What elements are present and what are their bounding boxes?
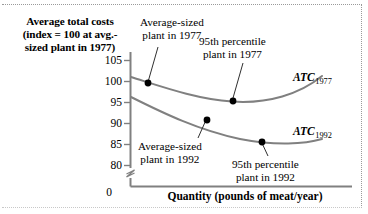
y-tick-label-100: 100 (96, 76, 122, 88)
annotation-p95-plant-1977: 95th percentile plant in 1977 (199, 35, 266, 60)
annotation-avg-plant-1977: Average-sized plant in 1977 (140, 16, 204, 41)
annotation-avg-plant-1992-line-2: plant in 1992 (138, 153, 202, 166)
curve-label-atc-1992-subscript: 1992 (315, 131, 332, 140)
annotation-p95-plant-1992-line-2: plant in 1992 (232, 171, 299, 184)
curve-label-atc-1977: ATC1977 (293, 71, 331, 83)
data-point-p95-1992 (259, 139, 266, 146)
origin-label: 0 (102, 186, 116, 198)
curve-label-atc-1992: ATC1992 (293, 125, 331, 137)
annotation-avg-plant-1977-line-2: plant in 1977 (140, 29, 204, 42)
axis-break-icon (127, 170, 135, 177)
curve-label-atc-1992-text: ATC (293, 125, 315, 137)
curve-label-atc-1977-subscript: 1977 (315, 77, 332, 86)
chart-figure: Average total costs (index = 100 at avg.… (0, 0, 368, 214)
annotation-avg-plant-1992: Average-sized plant in 1992 (138, 140, 202, 165)
annotation-p95-plant-1992: 95th percentile plant in 1992 (232, 158, 299, 183)
leader-line-p95-1977 (233, 63, 243, 98)
x-axis-title: Quantity (pounds of meat/year) (130, 190, 360, 202)
annotation-avg-plant-1992-line-1: Average-sized (138, 140, 202, 153)
leader-line-avg-1977 (148, 47, 158, 82)
y-tick-label-85: 85 (96, 139, 122, 151)
annotation-p95-plant-1992-line-1: 95th percentile (232, 158, 299, 171)
y-tick-label-95: 95 (96, 97, 122, 109)
y-tick-label-90: 90 (96, 118, 122, 130)
curve-label-atc-1977-text: ATC (293, 71, 315, 83)
annotation-p95-plant-1977-line-2: plant in 1977 (199, 48, 266, 61)
annotation-avg-plant-1977-line-1: Average-sized (140, 16, 204, 29)
y-tick-label-80: 80 (96, 160, 122, 172)
annotation-p95-plant-1977-line-1: 95th percentile (199, 35, 266, 48)
y-tick-label-105: 105 (96, 55, 122, 67)
data-point-p95-1977 (230, 98, 237, 105)
data-point-avg-1992 (204, 117, 211, 124)
data-point-avg-1977 (145, 80, 152, 87)
